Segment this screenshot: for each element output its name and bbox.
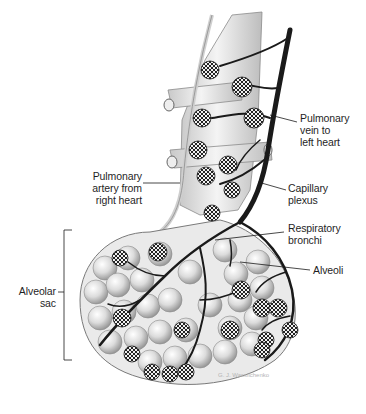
label-line: vein to — [300, 124, 349, 136]
label-line: Respiratory — [288, 222, 341, 234]
label-line: Pulmonary — [300, 112, 349, 124]
label-capillary-plexus: Capillary plexus — [288, 182, 328, 206]
label-pulmonary-vein: Pulmonary vein to left heart — [300, 112, 349, 148]
label-alveoli: Alveoli — [313, 264, 343, 276]
label-pulmonary-artery: Pulmonary artery from right heart — [78, 170, 142, 206]
artist-signature: G. J. Wassilchenko — [218, 370, 269, 380]
label-line: bronchi — [288, 234, 341, 246]
label-line: Alveolar — [4, 285, 56, 297]
label-line: plexus — [288, 194, 328, 206]
label-alveolar-sac: Alveolar sac — [4, 285, 56, 309]
label-line: Alveoli — [313, 264, 343, 276]
alveolus-illustration — [0, 0, 366, 414]
label-line: left heart — [300, 136, 349, 148]
label-respiratory-bronchi: Respiratory bronchi — [288, 222, 341, 246]
label-line: artery from — [78, 182, 142, 194]
label-line: Capillary — [288, 182, 328, 194]
label-line: sac — [4, 297, 56, 309]
label-line: Pulmonary — [78, 170, 142, 182]
label-line: right heart — [78, 194, 142, 206]
